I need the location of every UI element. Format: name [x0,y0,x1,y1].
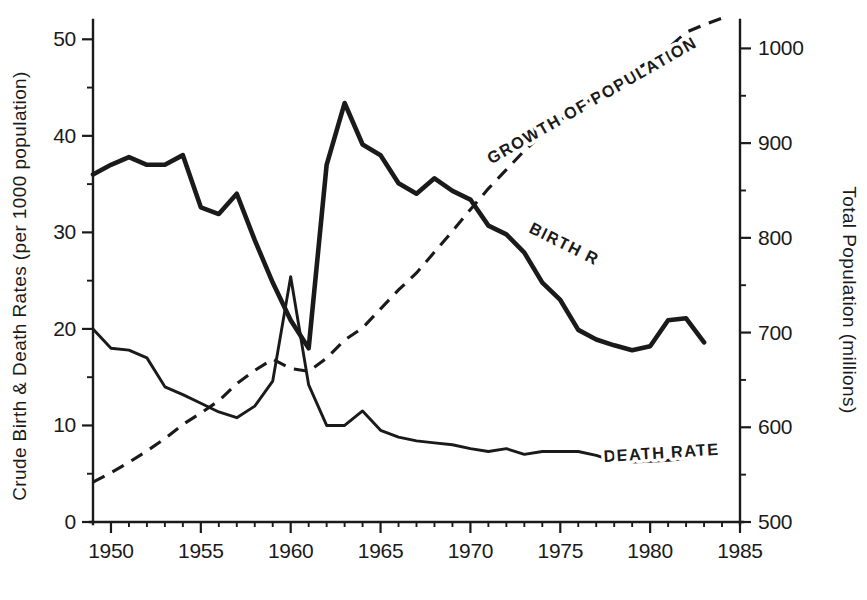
curve-label-group: GROWTH OF POPULATION BIRTH RATE DEATH RA… [0,0,720,465]
left-tick-label: 50 [53,27,76,50]
right-tick-label: 500 [758,510,792,533]
right-axis-ticks: 5006007008009001000 [740,36,804,533]
bottom-tick-label: 1985 [717,539,763,562]
right-tick-label: 600 [758,415,792,438]
bottom-tick-label: 1960 [268,539,314,562]
series-death-rate [93,277,704,462]
chart-figure: 01020304050 5006007008009001000 19501955… [0,0,867,600]
left-axis-ticks: 01020304050 [53,27,93,533]
bottom-tick-label: 1980 [627,539,673,562]
left-tick-label: 20 [53,317,76,340]
bottom-tick-label: 1965 [358,539,404,562]
right-axis-title: Total Population (millions) [839,186,860,413]
growth-of-population-label: GROWTH OF POPULATION [484,33,700,167]
right-tick-label: 900 [758,131,792,154]
death-rate-label: DEATH RATE [603,440,720,465]
bottom-tick-label: 1970 [448,539,494,562]
right-tick-label: 800 [758,226,792,249]
left-tick-label: 40 [53,124,76,147]
right-tick-label: 700 [758,321,792,344]
left-tick-label: 30 [53,220,76,243]
left-axis-title: Crude Birth & Death Rates (per 1000 popu… [9,71,30,501]
series-birth-rate [93,103,704,350]
chart-svg: 01020304050 5006007008009001000 19501955… [0,0,867,600]
bottom-axis-ticks: 19501955196019651970197519801985 [88,522,763,562]
left-tick-label: 10 [53,413,76,436]
bottom-tick-label: 1955 [178,539,224,562]
bottom-tick-label: 1975 [538,539,584,562]
left-tick-label: 0 [65,510,76,533]
right-tick-label: 1000 [758,36,804,59]
bottom-tick-label: 1950 [88,539,134,562]
